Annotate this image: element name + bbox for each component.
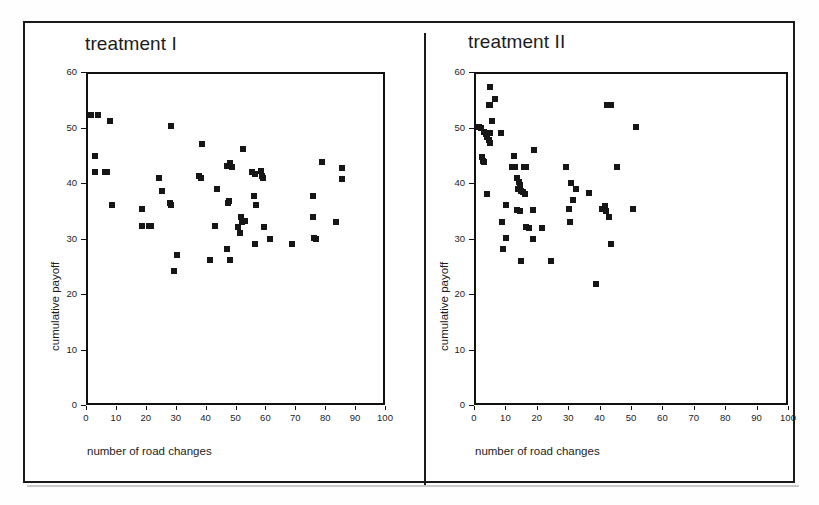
x-tick-mark (86, 406, 87, 410)
data-point (109, 202, 115, 208)
data-point (168, 123, 174, 129)
data-point (226, 198, 232, 204)
data-point (518, 258, 524, 264)
scatter-points-treatment-1 (88, 74, 383, 403)
x-tick-mark (631, 406, 632, 410)
y-tick-mark (81, 183, 86, 184)
x-tick-mark (757, 406, 758, 410)
data-point (212, 223, 218, 229)
panel-title-treatment-1: treatment I (85, 33, 177, 55)
data-point (253, 202, 259, 208)
data-point (139, 206, 145, 212)
y-tick-mark (469, 128, 474, 129)
data-point (240, 146, 246, 152)
x-tick-label: 40 (194, 413, 218, 423)
y-axis-title-right: cumulative payoff (438, 262, 450, 351)
y-tick-label: 0 (443, 400, 465, 409)
x-tick-label: 30 (556, 413, 580, 423)
data-point (633, 124, 639, 130)
x-tick-mark (600, 406, 601, 410)
y-tick-label: 40 (443, 178, 465, 187)
data-point (548, 258, 554, 264)
data-point (252, 241, 258, 247)
x-tick-label: 10 (493, 413, 517, 423)
y-tick-label: 50 (55, 123, 77, 132)
x-tick-mark (568, 406, 569, 410)
x-tick-mark (236, 406, 237, 410)
data-point (139, 223, 145, 229)
data-point (95, 112, 101, 118)
data-point (107, 118, 113, 124)
data-point (573, 186, 579, 192)
x-tick-label: 30 (164, 413, 188, 423)
x-tick-label: 80 (713, 413, 737, 423)
x-tick-label: 60 (253, 413, 277, 423)
data-point (487, 140, 493, 146)
data-point (481, 159, 487, 165)
x-tick-label: 40 (588, 413, 612, 423)
x-tick-mark (385, 406, 386, 410)
x-tick-mark (788, 406, 789, 410)
x-tick-mark (537, 406, 538, 410)
y-tick-mark (81, 72, 86, 73)
data-point (517, 208, 523, 214)
x-tick-label: 100 (776, 413, 800, 423)
x-tick-label: 10 (104, 413, 128, 423)
data-point (310, 214, 316, 220)
data-point (199, 141, 205, 147)
data-point (310, 193, 316, 199)
data-point (198, 175, 204, 181)
y-tick-label: 20 (443, 289, 465, 298)
x-tick-mark (146, 406, 147, 410)
data-point (530, 207, 536, 213)
y-tick-label: 50 (443, 123, 465, 132)
y-tick-mark (81, 128, 86, 129)
x-tick-mark (662, 406, 663, 410)
data-point (159, 188, 165, 194)
data-point (522, 191, 528, 197)
data-point (174, 252, 180, 258)
data-point (339, 165, 345, 171)
data-point (606, 214, 612, 220)
x-tick-label: 70 (682, 413, 706, 423)
x-axis-title-right: number of road changes (475, 445, 600, 457)
data-point (148, 223, 154, 229)
data-point (261, 224, 267, 230)
data-point (523, 164, 529, 170)
data-point (492, 96, 498, 102)
data-point (614, 164, 620, 170)
x-tick-label: 20 (134, 413, 158, 423)
y-tick-label: 30 (55, 234, 77, 243)
y-tick-mark (81, 294, 86, 295)
data-point (289, 241, 295, 247)
data-point (319, 159, 325, 165)
data-point (487, 84, 493, 90)
y-tick-mark (469, 294, 474, 295)
y-tick-mark (81, 239, 86, 240)
y-tick-label: 60 (55, 67, 77, 76)
data-point (599, 206, 605, 212)
data-point (593, 281, 599, 287)
data-point (566, 206, 572, 212)
x-tick-mark (265, 406, 266, 410)
data-point (207, 257, 213, 263)
data-point (171, 268, 177, 274)
data-point (567, 219, 573, 225)
x-tick-mark (474, 406, 475, 410)
figure-root: treatment I cumulative payoff number of … (0, 0, 819, 505)
x-tick-label: 70 (283, 413, 307, 423)
y-tick-label: 10 (443, 345, 465, 354)
y-tick-mark (81, 350, 86, 351)
data-point (242, 218, 248, 224)
data-point (499, 219, 505, 225)
y-tick-label: 60 (443, 67, 465, 76)
y-tick-label: 0 (55, 400, 77, 409)
data-point (339, 176, 345, 182)
data-point (489, 118, 495, 124)
data-point (88, 112, 94, 118)
data-point (487, 102, 493, 108)
data-point (608, 102, 614, 108)
y-tick-mark (469, 183, 474, 184)
data-point (608, 241, 614, 247)
data-point (92, 153, 98, 159)
